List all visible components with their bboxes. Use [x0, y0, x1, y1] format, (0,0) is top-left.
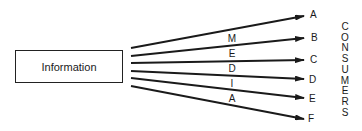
- consumer-b-label: B: [311, 33, 318, 43]
- media-letter-m: M: [227, 34, 237, 44]
- arrow-to-consumer-d: [131, 71, 304, 79]
- consumer-f-label: F: [308, 114, 314, 124]
- consumer-d-label: D: [309, 75, 316, 85]
- arrow-to-consumer-c: [131, 60, 304, 63]
- media-letter-a: A: [227, 94, 237, 104]
- information-label: Information: [41, 61, 96, 73]
- arrow-to-consumer-a: [131, 16, 304, 48]
- media-letter-d: D: [227, 64, 237, 74]
- arrow-to-consumer-b: [131, 38, 304, 56]
- consumers-letter: U: [341, 65, 348, 76]
- consumer-a-label: A: [310, 10, 317, 20]
- consumer-e-label: E: [309, 94, 316, 104]
- consumers-letter: S: [342, 108, 349, 119]
- arrow-to-consumer-e: [131, 78, 304, 98]
- media-letter-e: E: [227, 49, 237, 59]
- information-source-box: Information: [15, 50, 123, 83]
- consumer-c-label: C: [310, 55, 317, 65]
- consumers-heading: C O N S U M E R S: [340, 22, 350, 118]
- media-letter-i: I: [227, 79, 237, 89]
- arrow-to-consumer-f: [131, 86, 304, 119]
